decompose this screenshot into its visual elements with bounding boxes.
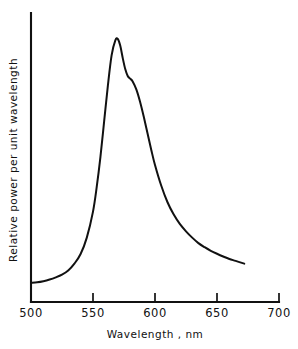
chart-figure: 500 550 600 650 700 Wavelength , nm Rela… [0, 0, 298, 349]
x-axis-title: Wavelength , nm [107, 328, 204, 340]
y-axis-title: Relative power per unit wavelength [7, 58, 19, 262]
x-tick-label-550: 550 [81, 306, 105, 320]
spectral-power-chart: 500 550 600 650 700 Wavelength , nm Rela… [0, 0, 298, 349]
x-axis-tick-labels: 500 550 600 650 700 [19, 306, 291, 320]
x-tick-label-600: 600 [143, 306, 167, 320]
x-axis-ticks [31, 293, 279, 302]
x-tick-label-500: 500 [19, 306, 43, 320]
x-tick-label-650: 650 [205, 306, 229, 320]
spectral-power-curve [31, 38, 244, 283]
x-tick-label-700: 700 [267, 306, 291, 320]
